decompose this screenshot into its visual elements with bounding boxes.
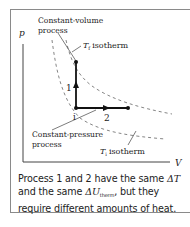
tf-isotherm-leader — [72, 46, 81, 52]
constant-volume-leader — [58, 33, 76, 61]
caption-line-3: require different amounts of heat. — [18, 202, 188, 215]
label-process-1: 1 — [66, 83, 72, 93]
x-axis-label: V — [175, 158, 183, 168]
caption-line-1: Process 1 and 2 have the same ΔT — [18, 172, 188, 185]
ti-isotherm-label: Tiisotherm — [100, 147, 145, 157]
figure-caption: Process 1 and 2 have the same ΔT and the… — [18, 172, 188, 215]
y-axis-label: p — [19, 28, 25, 38]
ti-isotherm-leader — [128, 131, 136, 145]
caption-line-2: and the same ΔUtherm, but they — [18, 185, 188, 202]
tf-isotherm-label: Tfisotherm — [83, 41, 129, 51]
point-2-final — [126, 106, 130, 110]
point-1-final — [74, 60, 78, 64]
process-1-arrow-icon — [73, 81, 79, 88]
pv-diagram: p V i 1 2 Constant-volume process Tfisot… — [0, 0, 190, 170]
constant-pressure-label: Constant-pressure process — [32, 130, 105, 149]
tf-isotherm-curve — [66, 40, 172, 114]
label-process-2: 2 — [104, 113, 110, 123]
point-initial — [74, 106, 78, 110]
process-2-arrow-icon — [103, 105, 110, 111]
constant-volume-label: Constant-volume process — [38, 16, 106, 35]
label-initial: i — [73, 112, 76, 122]
